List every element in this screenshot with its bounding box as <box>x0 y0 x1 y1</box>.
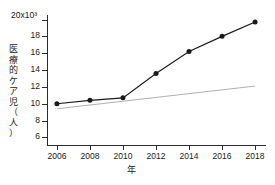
y-tick-mark <box>42 20 47 21</box>
x-axis-title: 年 <box>127 163 136 176</box>
y-tick-label: 8 <box>0 116 40 125</box>
data-point-marker <box>87 98 92 103</box>
x-tick-mark <box>255 145 256 150</box>
x-tick-label: 2014 <box>180 151 199 161</box>
x-tick-mark <box>156 145 157 150</box>
y-axis-line <box>47 15 48 145</box>
y-tick-mark <box>42 137 47 138</box>
y-tick-label: 18 <box>0 31 40 40</box>
x-tick-label: 2016 <box>213 151 232 161</box>
x-tick-label: 2006 <box>47 151 66 161</box>
x-tick-mark <box>222 145 223 150</box>
series-line <box>57 22 255 104</box>
data-point-marker <box>220 34 225 39</box>
x-tick-label: 2008 <box>80 151 99 161</box>
data-point-marker <box>120 95 125 100</box>
y-tick-mark <box>42 53 47 54</box>
data-point-marker <box>187 49 192 54</box>
data-point-marker <box>54 101 59 106</box>
x-tick-mark <box>189 145 190 150</box>
data-point-marker <box>154 71 159 76</box>
data-series-layer <box>0 0 275 185</box>
x-tick-mark <box>57 145 58 150</box>
y-tick-mark <box>42 104 47 105</box>
y-tick-label: 16 <box>0 48 40 57</box>
y-tick-label: 12 <box>0 82 40 91</box>
y-tick-label: 6 <box>0 132 40 141</box>
series-line <box>57 86 255 109</box>
y-tick-mark <box>42 36 47 37</box>
y-tick-label: 14 <box>0 65 40 74</box>
data-point-marker <box>253 20 258 25</box>
x-tick-label: 2010 <box>114 151 133 161</box>
y-tick-mark <box>42 121 47 122</box>
y-tick-mark <box>42 87 47 88</box>
x-tick-label: 2018 <box>246 151 265 161</box>
x-tick-mark <box>123 145 124 150</box>
x-tick-mark <box>90 145 91 150</box>
x-tick-label: 2012 <box>147 151 166 161</box>
y-tick-mark <box>42 70 47 71</box>
y-axis-exponent-label: 20x10³ <box>11 11 37 20</box>
chart-container: 20x10³ 医 療 的 ケ ア 児 （ 人 ） 181614121086 20… <box>0 0 275 185</box>
y-tick-label: 10 <box>0 99 40 108</box>
